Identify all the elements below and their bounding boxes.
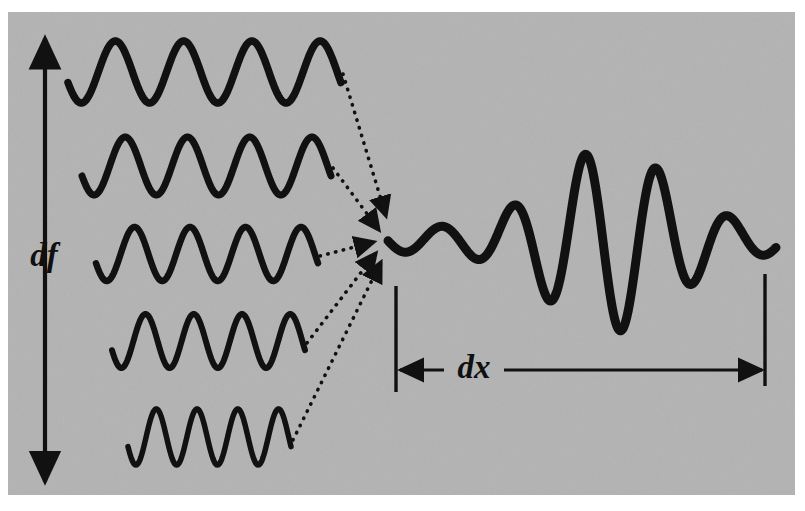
figure-root: df dx [0,0,805,511]
dx-label: dx [458,349,491,385]
wave-packet-diagram: df dx [0,0,805,511]
df-label: df [30,237,61,273]
